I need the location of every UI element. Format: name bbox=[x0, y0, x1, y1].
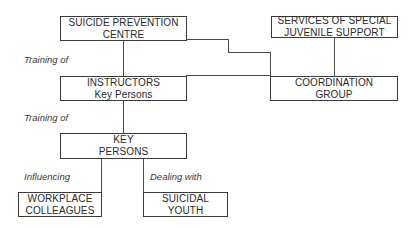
node-text: Key Persons bbox=[95, 89, 153, 101]
node-text: SUICIDE PREVENTION bbox=[68, 17, 178, 29]
node-key-persons: KEY PERSONS bbox=[60, 133, 187, 159]
node-text: PERSONS bbox=[99, 146, 149, 158]
node-workplace-colleagues: WORKPLACE COLLEAGUES bbox=[18, 192, 102, 217]
edge-label-influencing: Influencing bbox=[24, 171, 70, 182]
node-text: KEY bbox=[113, 134, 133, 146]
node-text: JUVENILE SUPPORT bbox=[284, 27, 384, 39]
node-services-special-juvenile-support: SERVICES OF SPECIAL JUVENILE SUPPORT bbox=[271, 16, 398, 38]
edge-instructors-keypersons bbox=[123, 100, 124, 133]
edge-label-training-of-1: Training of bbox=[24, 54, 68, 65]
edge-spc-coordination-4 bbox=[270, 52, 271, 76]
node-text: SERVICES OF SPECIAL bbox=[278, 15, 392, 27]
edge-spc-coordination-3 bbox=[228, 52, 271, 53]
node-suicide-prevention-centre: SUICIDE PREVENTION CENTRE bbox=[60, 16, 187, 41]
node-text: CENTRE bbox=[103, 29, 145, 41]
node-instructors: INSTRUCTORS Key Persons bbox=[60, 76, 187, 101]
node-text: YOUTH bbox=[168, 205, 204, 217]
node-text: COORDINATION bbox=[295, 77, 373, 89]
node-text: WORKPLACE bbox=[28, 193, 93, 205]
node-text: COLLEAGUES bbox=[26, 205, 95, 217]
edge-services-coordination bbox=[334, 37, 335, 76]
node-suicidal-youth: SUICIDAL YOUTH bbox=[143, 192, 228, 217]
node-text: SUICIDAL bbox=[162, 193, 209, 205]
edge-label-dealing-with: Dealing with bbox=[150, 171, 202, 182]
edge-instructors-coordination bbox=[186, 75, 270, 76]
node-text: GROUP bbox=[315, 89, 352, 101]
edge-keypersons-youth bbox=[143, 158, 144, 192]
edge-spc-coordination-2 bbox=[228, 39, 229, 52]
edge-spc-instructors bbox=[123, 40, 124, 76]
node-text: INSTRUCTORS bbox=[87, 77, 160, 89]
edge-spc-coordination-1 bbox=[186, 39, 229, 40]
edge-label-training-of-2: Training of bbox=[24, 112, 68, 123]
edge-keypersons-workplace bbox=[101, 158, 102, 192]
node-coordination-group: COORDINATION GROUP bbox=[270, 76, 398, 101]
